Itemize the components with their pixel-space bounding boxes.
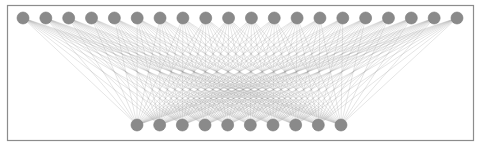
- bottom-node-1: [131, 119, 143, 131]
- top-node-17: [382, 12, 394, 24]
- top-node-6: [131, 12, 143, 24]
- bottom-node-6: [244, 119, 256, 131]
- top-node-5: [108, 12, 120, 24]
- top-node-10: [223, 12, 235, 24]
- top-node-12: [268, 12, 280, 24]
- top-node-4: [86, 12, 98, 24]
- top-node-7: [154, 12, 166, 24]
- top-node-13: [291, 12, 303, 24]
- bottom-node-4: [199, 119, 211, 131]
- bottom-node-9: [312, 119, 324, 131]
- bottom-node-3: [176, 119, 188, 131]
- top-node-14: [314, 12, 326, 24]
- bottom-node-10: [335, 119, 347, 131]
- top-node-8: [177, 12, 189, 24]
- top-node-16: [360, 12, 372, 24]
- bottom-node-7: [267, 119, 279, 131]
- top-node-1: [17, 12, 29, 24]
- top-node-15: [337, 12, 349, 24]
- bottom-node-5: [222, 119, 234, 131]
- network-diagram: [0, 0, 477, 145]
- top-node-19: [428, 12, 440, 24]
- top-node-3: [63, 12, 75, 24]
- bottom-node-8: [290, 119, 302, 131]
- top-node-9: [200, 12, 212, 24]
- bottom-node-2: [154, 119, 166, 131]
- top-node-18: [405, 12, 417, 24]
- top-node-11: [245, 12, 257, 24]
- top-node-20: [451, 12, 463, 24]
- top-node-2: [40, 12, 52, 24]
